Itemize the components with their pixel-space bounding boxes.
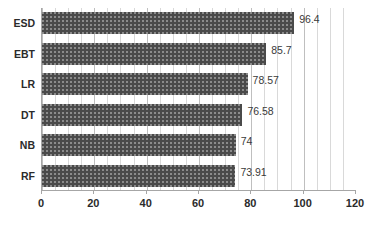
category-label-rf: RF [0,171,35,182]
x-tick-mark [355,190,356,194]
bar-row: 76.58 [42,100,355,131]
bar-ebt[interactable] [42,43,266,65]
x-tick-mark [41,190,42,194]
x-tick-mark [146,190,147,194]
category-label-esd: ESD [0,18,35,29]
bar-value-label: 85.7 [271,45,291,56]
bar-row: 85.7 [42,39,355,70]
x-tick-label-20: 20 [87,198,99,209]
category-label-dt: DT [0,110,35,121]
bar-row: 73.91 [42,161,355,192]
bar-row: 78.57 [42,69,355,100]
x-tick-mark [198,190,199,194]
x-tick-label-80: 80 [244,198,256,209]
bar-row: 96.4 [42,8,355,39]
category-label-nb: NB [0,140,35,151]
bar-lr[interactable] [42,73,248,95]
x-tick-label-60: 60 [192,198,204,209]
category-label-ebt: EBT [0,49,35,60]
x-tick-mark [303,190,304,194]
x-tick-mark [93,190,94,194]
bar-value-label: 76.58 [247,106,273,117]
bar-value-label: 96.4 [299,14,319,25]
bar-chart: 96.485.778.5776.587473.91 ESDEBTLRDTNBRF… [0,0,376,227]
bar-value-label: 74 [241,136,253,147]
plot-area: 96.485.778.5776.587473.91 [41,8,355,191]
x-tick-label-120: 120 [346,198,364,209]
x-tick-label-40: 40 [140,198,152,209]
bar-value-label: 73.91 [240,167,266,178]
bar-value-label: 78.57 [253,75,279,86]
bar-row: 74 [42,130,355,161]
bar-rf[interactable] [42,165,235,187]
x-tick-label-0: 0 [38,198,44,209]
bar-dt[interactable] [42,104,242,126]
category-label-lr: LR [0,79,35,90]
bar-esd[interactable] [42,12,294,34]
x-tick-label-100: 100 [293,198,311,209]
x-tick-mark [250,190,251,194]
bar-nb[interactable] [42,134,236,156]
